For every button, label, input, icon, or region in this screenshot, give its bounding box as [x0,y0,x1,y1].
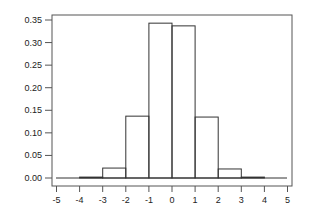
x-tick-label: 2 [216,195,221,205]
y-tick-label: 0.35 [24,15,42,25]
y-tick-label: 0.15 [24,105,42,115]
y-tick-label: 0.20 [24,83,42,93]
histogram-bars [80,23,265,178]
histogram-chart: 0.000.050.100.150.200.250.300.35 -5-4-3-… [0,0,311,217]
y-tick-label: 0.10 [24,128,42,138]
x-tick-label: 5 [285,195,290,205]
x-tick-label: -5 [52,195,60,205]
histogram-bar [103,168,126,178]
y-tick-label: 0.30 [24,38,42,48]
x-tick-label: 0 [169,195,174,205]
histogram-bar [172,26,195,178]
x-tick-label: -2 [122,195,130,205]
y-tick-label: 0.25 [24,60,42,70]
y-tick-label: 0.05 [24,150,42,160]
x-tick-label: 1 [193,195,198,205]
histogram-bar [195,117,218,178]
x-axis: -5-4-3-2-1012345 [52,186,290,205]
x-tick-label: 4 [262,195,267,205]
x-tick-label: 3 [239,195,244,205]
histogram-bar [126,116,149,178]
histogram-bar [149,23,172,178]
x-tick-label: -4 [76,195,84,205]
x-tick-label: -1 [145,195,153,205]
y-tick-label: 0.00 [24,173,42,183]
x-tick-label: -3 [99,195,107,205]
histogram-bar [218,169,241,178]
y-axis: 0.000.050.100.150.200.250.300.35 [24,15,52,183]
